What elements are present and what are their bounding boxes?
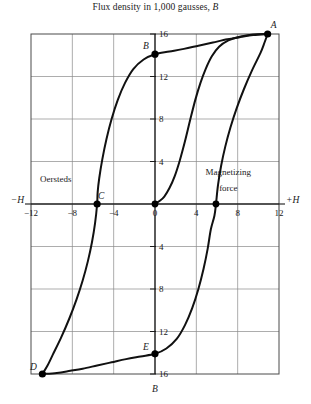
y-tick-label: 4 xyxy=(159,242,164,252)
x-tick-label: 8 xyxy=(235,208,240,218)
y-tick-label: 16 xyxy=(159,29,169,39)
annotation-magnetizing-force-line2: force xyxy=(219,183,237,193)
data-point-marker-d xyxy=(39,370,46,377)
annotation-oersteds: Oersteds xyxy=(40,174,72,184)
hysteresis-plot: −12−8−404812481216481216 ABCDEOerstedsMa… xyxy=(0,0,311,404)
point-label-e: E xyxy=(142,342,149,352)
annotation-magnetizing-force-line1: Magnetizing xyxy=(206,167,252,177)
x-tick-label: −8 xyxy=(68,208,78,218)
y-tick-label: 8 xyxy=(159,114,164,124)
x-tick-label: 0 xyxy=(153,208,158,218)
hysteresis-figure: Flux density in 1,000 gausses, B −12−8−4… xyxy=(0,0,311,404)
y-tick-label: 4 xyxy=(159,157,164,167)
data-point-marker-e xyxy=(151,350,158,357)
chart-title-text: Flux density in 1,000 gausses, xyxy=(93,2,211,12)
point-label-c: C xyxy=(98,191,105,201)
point-label-b: B xyxy=(143,41,149,51)
point-label-d: D xyxy=(29,362,37,372)
data-point-marker-c xyxy=(94,200,101,207)
y-tick-label: 12 xyxy=(159,327,168,337)
y-tick-label: 8 xyxy=(159,284,164,294)
axis-label-positive-h: +H xyxy=(286,195,300,205)
x-tick-label: 12 xyxy=(275,208,284,218)
point-label-a: A xyxy=(270,20,277,30)
data-point-marker-b xyxy=(151,51,158,58)
chart-title-symbol: B xyxy=(213,2,219,12)
data-point-marker xyxy=(152,201,159,208)
data-point-marker xyxy=(213,201,220,208)
chart-title: Flux density in 1,000 gausses, B xyxy=(0,2,311,12)
x-tick-label: −12 xyxy=(24,208,38,218)
y-tick-label: 16 xyxy=(159,369,169,379)
x-tick-label: −4 xyxy=(109,208,119,218)
y-tick-label: 12 xyxy=(159,72,168,82)
axis-label-negative-h: −H xyxy=(11,195,25,205)
x-tick-label: 4 xyxy=(194,208,199,218)
data-point-marker-a xyxy=(264,30,271,37)
axis-label-b-bottom: B xyxy=(152,384,158,394)
